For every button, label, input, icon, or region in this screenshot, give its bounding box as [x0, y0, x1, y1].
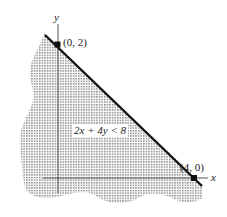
y-axis-label: y — [54, 12, 59, 23]
point-label-x-intercept: (4, 0) — [180, 162, 204, 173]
point-x-intercept — [191, 175, 197, 181]
inequality-label: 2x + 4y < 8 — [72, 124, 128, 137]
shaded-solution-region — [20, 32, 210, 203]
x-axis-label: x — [211, 172, 216, 183]
graph-canvas — [0, 0, 227, 217]
point-label-y-intercept: (0, 2) — [63, 37, 87, 48]
point-y-intercept — [55, 42, 61, 48]
inequality-graph: y x (0, 2) (4, 0) 2x + 4y < 8 — [0, 0, 227, 217]
